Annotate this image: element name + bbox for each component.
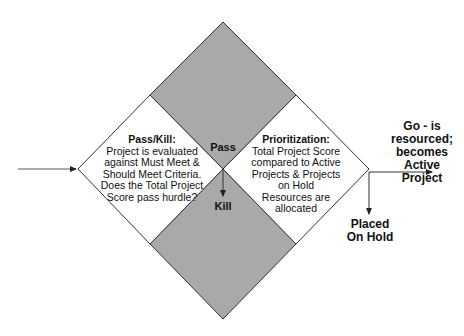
prioritization-text: Prioritization: Total Project Score comp… (240, 134, 352, 215)
go-label: Go - is resourced; becomes Active Projec… (380, 120, 464, 185)
pass-kill-line: Does the Total Project (92, 180, 212, 192)
prioritization-title: Prioritization: (240, 134, 352, 146)
pass-kill-line: Score pass hurdle? (92, 192, 212, 204)
hold-label: Placed On Hold (338, 218, 402, 244)
hold-line: On Hold (338, 231, 402, 244)
pass-label: Pass (203, 142, 243, 154)
pass-kill-line: against Must Meet & (92, 157, 212, 169)
prioritization-line: compared to Active (240, 157, 352, 169)
kill-label: Kill (207, 201, 239, 213)
pass-kill-title: Pass/Kill: (92, 134, 212, 146)
pass-kill-text: Pass/Kill: Project is evaluated against … (92, 134, 212, 203)
prioritization-line: on Hold (240, 180, 352, 192)
go-line: becomes Active (380, 146, 464, 172)
prioritization-line: allocated (240, 203, 352, 215)
go-line: Project (380, 172, 464, 185)
